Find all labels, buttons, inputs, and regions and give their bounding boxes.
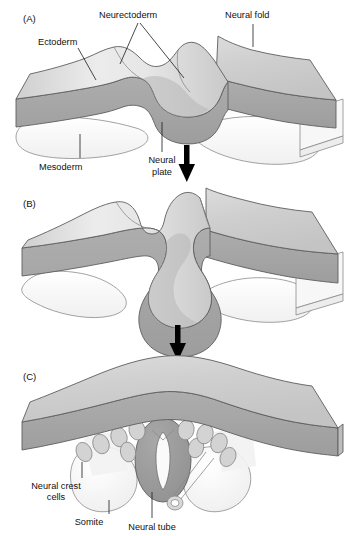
label-neural-fold: Neural fold — [225, 10, 269, 20]
panel-c-label: (C) — [23, 371, 36, 382]
label-neurectoderm: Neurectoderm — [99, 10, 158, 20]
label-neural-plate-line2: plate — [152, 167, 172, 177]
panel-b-label: (B) — [23, 198, 36, 209]
arrow-a-to-b — [179, 145, 196, 182]
panel-b: (B) — [22, 188, 343, 357]
label-neural-tube: Neural tube — [128, 522, 176, 532]
panel-a-label: (A) — [23, 13, 36, 24]
panel-c: (C) Neural crest cells Somite Neural tub… — [22, 356, 343, 532]
neurulation-figure: (A) Ectoderm Neurectoderm Neural fold Me… — [0, 0, 354, 536]
panel-a: (A) Ectoderm Neurectoderm Neural fold Me… — [16, 10, 343, 177]
label-somite: Somite — [75, 517, 104, 527]
label-neural-crest-cells-line1: Neural crest — [31, 481, 81, 491]
label-mesoderm: Mesoderm — [39, 162, 83, 172]
label-ectoderm: Ectoderm — [38, 37, 78, 47]
label-neural-plate-line1: Neural — [148, 155, 175, 165]
label-neural-crest-cells-line2: cells — [47, 492, 66, 502]
